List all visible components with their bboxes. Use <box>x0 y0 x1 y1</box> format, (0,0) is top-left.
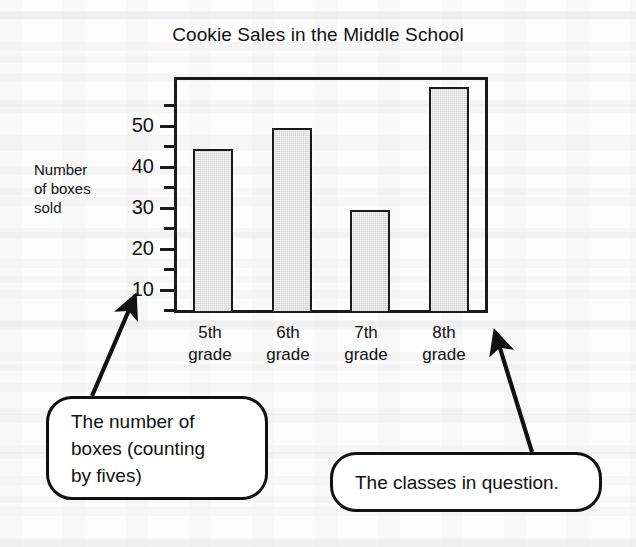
callout-left-line-1: The number of <box>71 408 205 435</box>
callout-left-arrow <box>92 296 135 396</box>
callout-right-arrow <box>495 332 532 452</box>
callout-left: The number of boxes (counting by fives) <box>46 396 268 500</box>
chart-page: Cookie Sales in the Middle School Number… <box>0 0 636 547</box>
y-tick-label-40: 40 <box>104 155 154 178</box>
y-tick-major-40 <box>160 166 174 169</box>
bar-5th-grade[interactable] <box>193 149 233 313</box>
y-tick-major-10 <box>160 289 174 292</box>
chart-title: Cookie Sales in the Middle School <box>0 24 636 46</box>
bar-8th-grade[interactable] <box>429 87 469 313</box>
x-category-8th-line1: 8th <box>388 322 500 344</box>
y-tick-minor-5 <box>164 309 174 312</box>
callout-right-text: The classes in question. <box>333 469 581 496</box>
y-tick-minor-55 <box>164 104 174 107</box>
y-tick-minor-45 <box>164 145 174 148</box>
plot-area <box>174 77 488 313</box>
y-tick-minor-35 <box>164 186 174 189</box>
callout-left-line-3: by fives) <box>71 462 205 489</box>
y-tick-label-50: 50 <box>104 114 154 137</box>
callout-left-line-2: boxes (counting <box>71 435 205 462</box>
bar-6th-grade[interactable] <box>272 128 312 313</box>
y-tick-label-10: 10 <box>104 278 154 301</box>
callout-right: The classes in question. <box>330 452 602 512</box>
y-tick-minor-15 <box>164 268 174 271</box>
bar-7th-grade[interactable] <box>350 210 390 313</box>
y-tick-major-30 <box>160 207 174 210</box>
y-tick-minor-25 <box>164 227 174 230</box>
callout-left-text: The number of boxes (counting by fives) <box>49 408 227 489</box>
callout-right-line-1: The classes in question. <box>355 469 559 496</box>
x-category-label-8th-grade: 8th grade <box>388 322 500 366</box>
x-category-8th-line2: grade <box>388 344 500 366</box>
y-tick-major-20 <box>160 248 174 251</box>
y-tick-major-50 <box>160 125 174 128</box>
y-tick-label-20: 20 <box>104 237 154 260</box>
y-tick-label-30: 30 <box>104 196 154 219</box>
